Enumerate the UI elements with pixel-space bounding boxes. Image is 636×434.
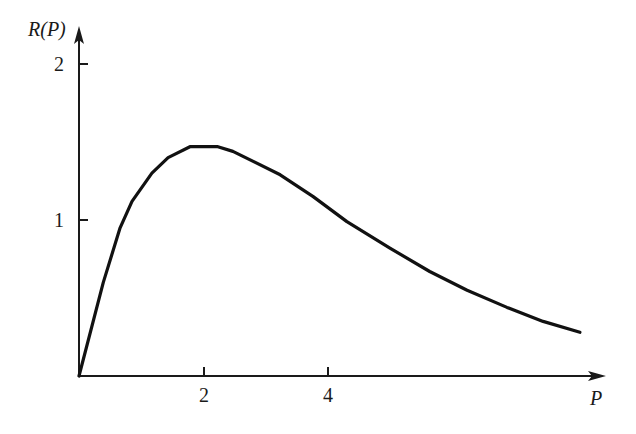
x-tick-label-2: 2 — [199, 384, 209, 407]
chart-plot — [0, 0, 636, 434]
y-tick-label-1: 1 — [54, 209, 64, 232]
y-axis-label: R(P) — [28, 18, 66, 41]
x-axis-label: P — [590, 387, 602, 410]
x-tick-label-4: 4 — [323, 384, 333, 407]
axes — [79, 36, 596, 376]
y-tick-label-2: 2 — [54, 53, 64, 76]
curve-line — [79, 147, 580, 376]
